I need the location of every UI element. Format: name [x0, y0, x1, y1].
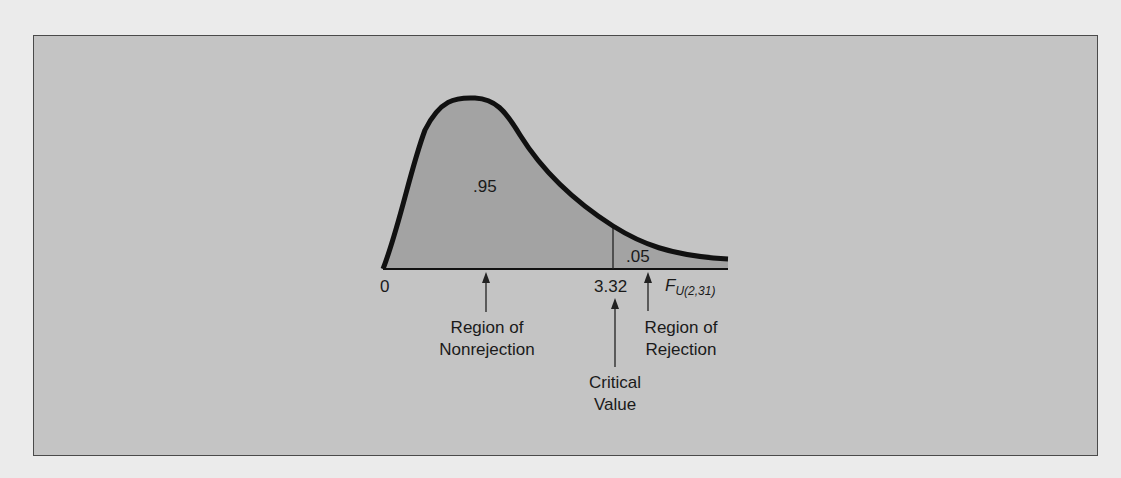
nonrejection-annotation-line1: Region of: [439, 317, 534, 339]
critical-annotation-line2: Value: [589, 394, 641, 416]
f-distribution-plot: [0, 0, 1121, 478]
critical-value-label: 3.32: [594, 276, 627, 298]
nonrejection-area-label: .95: [473, 176, 497, 198]
critical-annotation-line1: Critical: [589, 372, 641, 394]
rejection-arrowhead-icon: [644, 272, 652, 283]
rejection-annotation: Region of Rejection: [645, 317, 718, 361]
rejection-annotation-line2: Rejection: [645, 339, 718, 361]
f-symbol: F: [665, 276, 675, 295]
f-subscript: U(2,31): [675, 284, 715, 298]
nonrejection-annotation-line2: Nonrejection: [439, 339, 534, 361]
f-statistic-label: FU(2,31): [665, 275, 715, 302]
nonrejection-arrowhead-icon: [482, 272, 490, 283]
critical-value-arrowhead-icon: [611, 298, 619, 309]
critical-value-annotation: Critical Value: [589, 372, 641, 416]
rejection-annotation-line1: Region of: [645, 317, 718, 339]
rejection-area-label: .05: [626, 246, 650, 268]
nonrejection-annotation: Region of Nonrejection: [439, 317, 534, 361]
axis-origin-label: 0: [380, 276, 389, 298]
